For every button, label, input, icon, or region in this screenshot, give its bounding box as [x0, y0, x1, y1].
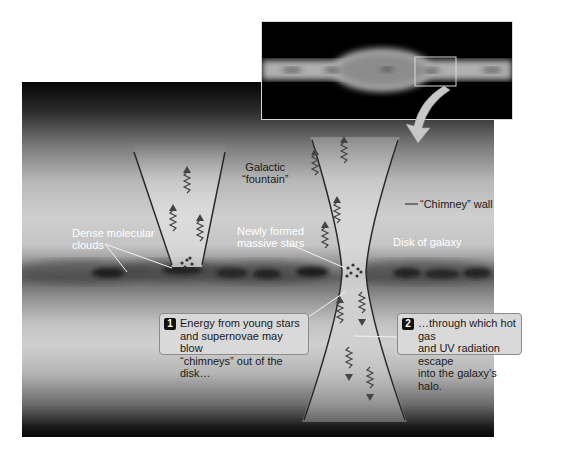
chimney-wall-label: “Chimney” wall — [420, 198, 493, 210]
step-badge-2: 2 — [402, 318, 414, 330]
step-badge-1: 1 — [164, 318, 176, 330]
disk-of-galaxy-label: Disk of galaxy — [393, 236, 461, 248]
dense-molecular-clouds-label: Dense molecular clouds — [72, 227, 155, 251]
newly-formed-stars-label: Newly formed massive stars — [237, 225, 304, 249]
galactic-fountain-label: Galactic “fountain” — [242, 161, 288, 185]
callout-1: 1 Energy from young stars and supernovae… — [159, 313, 309, 355]
callout-2: 2 …through which hot gas and UV radiatio… — [397, 313, 522, 355]
inset-graphics — [262, 22, 512, 119]
galaxy-edge-on-inset — [261, 21, 513, 120]
